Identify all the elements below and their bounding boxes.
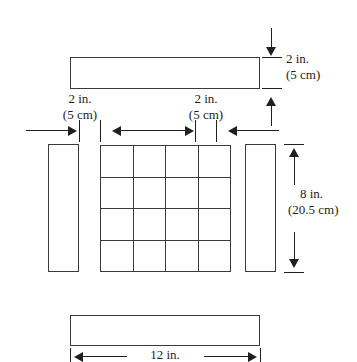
grid-cell xyxy=(101,209,134,241)
grid-cell xyxy=(199,178,232,210)
right-vertical-bar xyxy=(245,144,276,272)
dimension-label-width: 12 in. xyxy=(125,347,205,362)
grid-cell xyxy=(166,209,199,241)
arrowhead-left-icon xyxy=(74,352,83,362)
bottom-horizontal-bar xyxy=(70,315,260,346)
dimension-value-centimeters: (20.5 cm) xyxy=(288,202,339,218)
dimension-line xyxy=(271,106,272,126)
dimension-value-centimeters: (5 cm) xyxy=(40,107,120,123)
left-vertical-bar xyxy=(48,144,79,272)
grid-cell xyxy=(166,146,199,178)
dimension-label-left-gap: 2 in. (5 cm) xyxy=(40,91,120,123)
dimension-line xyxy=(143,130,185,131)
dimension-value-centimeters: (5 cm) xyxy=(166,107,246,123)
top-horizontal-bar xyxy=(70,57,260,89)
extension-tick xyxy=(70,348,71,362)
dimension-line xyxy=(294,157,295,185)
arrowhead-down-icon xyxy=(266,47,276,56)
center-grid xyxy=(100,145,231,272)
grid-cell xyxy=(166,178,199,210)
grid-cell xyxy=(101,241,134,273)
diagram-canvas: 2 in. (5 cm) 2 in. (5 cm) 2 in. (5 cm) xyxy=(0,0,357,362)
arrowhead-left-icon xyxy=(112,126,121,136)
extension-tick xyxy=(195,120,196,142)
dimension-line xyxy=(26,130,68,131)
arrowhead-up-icon xyxy=(289,148,299,157)
arrowhead-down-icon xyxy=(289,259,299,268)
dimension-value-inches: 2 in. xyxy=(286,51,320,67)
grid-cell xyxy=(134,241,167,273)
arrowhead-up-icon xyxy=(266,97,276,106)
extension-tick xyxy=(79,120,80,142)
dimension-line xyxy=(294,232,295,260)
dimension-label-right-gap: 2 in. (5 cm) xyxy=(166,91,246,123)
grid-cell xyxy=(101,178,134,210)
grid-cell xyxy=(166,241,199,273)
dimension-value-centimeters: (5 cm) xyxy=(286,67,320,83)
extension-tick xyxy=(260,348,261,362)
dimension-value-inches: 12 in. xyxy=(125,347,205,362)
grid-cell xyxy=(134,209,167,241)
grid-cell xyxy=(134,178,167,210)
dimension-value-inches: 2 in. xyxy=(40,91,120,107)
extension-tick xyxy=(262,57,282,58)
grid-cell xyxy=(199,209,232,241)
arrowhead-right-icon xyxy=(185,126,194,136)
dimension-line xyxy=(83,356,127,357)
grid-cell xyxy=(199,241,232,273)
dimension-label-bar-thickness: 2 in. (5 cm) xyxy=(286,51,320,83)
dimension-line xyxy=(271,28,272,48)
arrowhead-right-icon xyxy=(248,352,257,362)
grid-cell xyxy=(101,146,134,178)
dimension-line xyxy=(237,130,279,131)
extension-tick xyxy=(100,120,101,142)
dimension-value-inches: 2 in. xyxy=(166,91,246,107)
dimension-value-inches: 8 in. xyxy=(288,186,339,202)
arrowhead-right-icon xyxy=(68,126,77,136)
extension-tick xyxy=(262,88,282,89)
arrowhead-left-icon xyxy=(228,126,237,136)
extension-tick xyxy=(216,120,217,142)
grid-cell xyxy=(134,146,167,178)
grid-cell xyxy=(199,146,232,178)
dimension-line xyxy=(204,356,248,357)
extension-tick xyxy=(284,144,304,145)
extension-tick xyxy=(284,272,304,273)
dimension-label-height: 8 in. (20.5 cm) xyxy=(288,186,339,218)
